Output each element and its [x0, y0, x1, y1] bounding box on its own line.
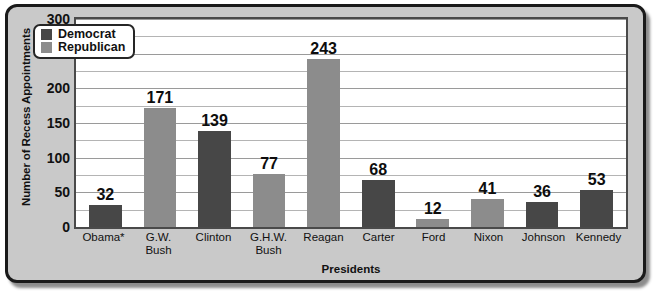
x-axis-label: Nixon — [461, 231, 516, 256]
bar-value-label: 12 — [424, 201, 442, 217]
x-axis-title: Presidents — [74, 263, 628, 275]
x-axis-label-line: Kennedy — [571, 231, 626, 244]
bar-carter: 68 — [362, 180, 395, 227]
bar-slot: 139 — [187, 19, 242, 227]
x-axis-label: Carter — [351, 231, 406, 256]
y-axis-tick-label: 50 — [34, 185, 70, 199]
bar-value-label: 36 — [533, 184, 551, 200]
bar-ford: 12 — [416, 219, 449, 227]
x-axis-label-line: Nixon — [461, 231, 516, 244]
x-axis-label-line: Carter — [351, 231, 406, 244]
bar-series: 32171139772436812413653 — [76, 19, 626, 227]
bar-value-label: 77 — [260, 156, 278, 172]
bar-slot: 243 — [296, 19, 351, 227]
bar-value-label: 41 — [479, 181, 497, 197]
bar-reagan: 243 — [307, 59, 340, 227]
bar-slot: 41 — [460, 19, 515, 227]
bar-slot: 77 — [242, 19, 297, 227]
x-axis-label-line: G.H.W. — [241, 231, 296, 244]
y-axis-tick-label: 150 — [34, 116, 70, 130]
bar-g-w-bush: 171 — [144, 108, 177, 227]
x-axis-label-line: Johnson — [516, 231, 571, 244]
chart-frame: Number of Recess Appointments 3002502001… — [5, 4, 646, 283]
bar-value-label: 68 — [369, 162, 387, 178]
x-axis-label-line: Obama* — [76, 231, 131, 244]
bar-clinton: 139 — [198, 131, 231, 227]
x-axis-category-labels: Obama*G.W.BushClintonG.H.W.BushReaganCar… — [74, 231, 628, 256]
bar-g-h-w-bush: 77 — [253, 174, 286, 227]
y-axis-tick-label: 200 — [34, 81, 70, 95]
bar-value-label: 243 — [310, 41, 337, 57]
bar-slot: 68 — [351, 19, 406, 227]
x-axis-label: G.H.W.Bush — [241, 231, 296, 256]
y-axis-tick-label: 0 — [34, 220, 70, 234]
x-axis-label-line: Bush — [241, 244, 296, 257]
bar-kennedy: 53 — [580, 190, 613, 227]
x-axis-label: Kennedy — [571, 231, 626, 256]
bar-slot: 53 — [569, 19, 624, 227]
x-axis-label: G.W.Bush — [131, 231, 186, 256]
x-axis-label: Ford — [406, 231, 461, 256]
legend-swatch-republican-icon — [41, 42, 52, 53]
x-axis-label: Clinton — [186, 231, 241, 256]
bar-value-label: 171 — [147, 90, 174, 106]
bar-value-label: 53 — [588, 172, 606, 188]
x-axis-label-line: Reagan — [296, 231, 351, 244]
chart-screenshot: Number of Recess Appointments 3002502001… — [0, 0, 656, 294]
x-axis-label: Reagan — [296, 231, 351, 256]
legend-label-republican: Republican — [58, 41, 125, 54]
bar-value-label: 32 — [96, 187, 114, 203]
x-axis-label-line: G.W. — [131, 231, 186, 244]
chart-legend: Democrat Republican — [33, 24, 135, 59]
bar-johnson: 36 — [526, 202, 559, 227]
x-axis-label: Johnson — [516, 231, 571, 256]
bar-slot: 12 — [406, 19, 461, 227]
y-axis-title: Number of Recess Appointments — [20, 12, 32, 222]
x-axis-label-line: Ford — [406, 231, 461, 244]
bar-slot: 171 — [133, 19, 188, 227]
x-axis-label: Obama* — [76, 231, 131, 256]
bar-slot: 36 — [515, 19, 570, 227]
legend-swatch-democrat-icon — [41, 29, 52, 40]
y-axis-tick-label: 100 — [34, 151, 70, 165]
plot-area: 32171139772436812413653 — [74, 17, 628, 229]
bar-obama: 32 — [89, 205, 122, 227]
bar-nixon: 41 — [471, 199, 504, 227]
bar-value-label: 139 — [201, 113, 228, 129]
legend-item-republican: Republican — [41, 41, 125, 54]
x-axis-label-line: Clinton — [186, 231, 241, 244]
x-axis-label-line: Bush — [131, 244, 186, 257]
